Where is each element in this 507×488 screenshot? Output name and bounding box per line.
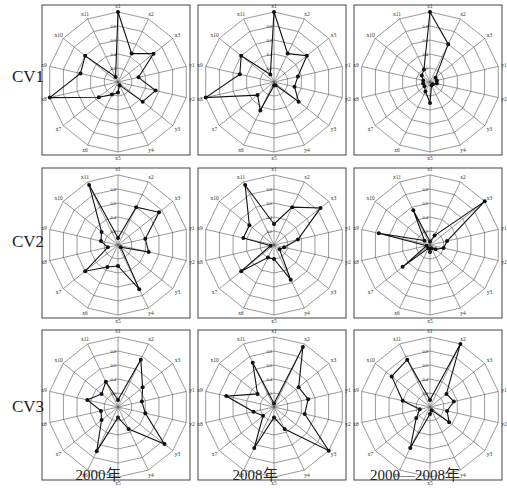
axis-label: x9: [41, 225, 47, 231]
data-point: [445, 409, 449, 413]
ring-tick-label: 0.6: [266, 201, 272, 206]
data-point: [99, 239, 103, 243]
panel-frame: [198, 330, 346, 480]
data-point: [140, 400, 144, 404]
ring-tick-label: 0.8: [422, 349, 428, 354]
axis-label: x9: [197, 62, 203, 68]
row-label-cv2: CV2: [12, 232, 44, 252]
axis-label: x6: [394, 310, 400, 316]
axis-label: x9: [41, 387, 47, 393]
axis-label: y2: [501, 421, 507, 427]
axis-label: y1: [345, 387, 351, 393]
radar-panel: x1x2x3y1y2y3y4x5x6x7x8x9x10x110.20.40.60…: [353, 3, 507, 161]
axis-label: x3: [487, 195, 493, 201]
axis-label: y1: [501, 387, 507, 393]
axis-label: y3: [487, 289, 493, 295]
data-point: [452, 400, 456, 404]
ring-tick-label: 0.4: [110, 215, 116, 220]
axis-label: x1: [115, 3, 121, 9]
data-point: [425, 244, 429, 248]
axis-label: y2: [345, 96, 351, 102]
data-point: [319, 206, 323, 210]
data-point: [483, 199, 487, 203]
panel-frame: [354, 330, 502, 480]
axis-label: y3: [487, 451, 493, 457]
axis-label: x6: [82, 310, 88, 316]
axis-label: x2: [148, 174, 154, 180]
data-point: [428, 10, 432, 14]
radar-panel: x1x2x3y1y2y3y4x5x6x7x8x9x10x110.20.40.60…: [197, 3, 351, 161]
axis-label: x7: [56, 289, 62, 295]
ring-tick-label: 0.8: [266, 24, 272, 29]
data-point: [114, 75, 118, 79]
data-point: [252, 446, 256, 450]
ring-tick-label: 0.8: [110, 24, 116, 29]
axis-label: x9: [353, 62, 359, 68]
data-point: [297, 385, 301, 389]
data-point: [283, 427, 287, 431]
axis-label: y2: [189, 96, 195, 102]
ring-tick-label: 0.2: [110, 66, 116, 71]
radar-panel: x1x2x3y1y2y3y4x5x6x7x8x9x10x110.20.40.60…: [197, 166, 351, 324]
data-point: [116, 91, 120, 95]
data-point: [251, 361, 255, 365]
ring-tick-label: 0.6: [110, 363, 116, 368]
data-point: [445, 239, 449, 243]
data-point: [116, 264, 120, 268]
axis-label: x11: [237, 11, 245, 17]
data-point: [106, 245, 110, 249]
data-point: [204, 96, 208, 100]
axis-label: y4: [304, 147, 310, 153]
axis-label: y2: [345, 259, 351, 265]
data-point: [139, 358, 143, 362]
ring-tick-label: 0.8: [422, 187, 428, 192]
data-point: [428, 250, 432, 254]
ring-tick-label: 0.6: [422, 363, 428, 368]
data-point: [154, 89, 158, 93]
axis-label: y3: [331, 289, 337, 295]
axis-label: x1: [427, 328, 433, 334]
data-point: [301, 345, 305, 349]
data-point: [116, 398, 120, 402]
axis-label: x8: [353, 259, 359, 265]
ring-tick-label: 0.2: [266, 229, 272, 234]
axis-label: y3: [331, 451, 337, 457]
axis-label: x1: [115, 166, 121, 172]
axis-label: y2: [189, 259, 195, 265]
data-point: [147, 250, 151, 254]
panel-frame: [198, 5, 346, 155]
data-point: [390, 374, 394, 378]
data-point: [152, 52, 156, 56]
axis-label: y3: [175, 289, 181, 295]
axis-label: y2: [501, 96, 507, 102]
axis-label: x10: [54, 195, 63, 201]
data-point: [239, 54, 243, 58]
data-point: [428, 240, 432, 244]
axis-label: y2: [345, 421, 351, 427]
data-point: [401, 399, 405, 403]
axis-label: x2: [460, 336, 466, 342]
axis-label: x1: [271, 166, 277, 172]
data-point: [272, 257, 276, 261]
axis-label: x7: [56, 126, 62, 132]
axis-label: x7: [212, 289, 218, 295]
axis-label: x3: [331, 195, 337, 201]
axis-label: x5: [271, 155, 277, 161]
axis-label: x3: [487, 357, 493, 363]
axis-label: x8: [41, 96, 47, 102]
data-point: [48, 96, 52, 100]
data-point: [258, 108, 262, 112]
axis-label: x7: [368, 126, 374, 132]
ring-tick-label: 0.6: [110, 201, 116, 206]
radar-chart-grid: x1x2x3y1y2y3y4x5x6x7x8x9x10x110.20.40.60…: [0, 0, 507, 488]
axis-label: y4: [304, 310, 310, 316]
ring-tick-label: 0.4: [422, 377, 428, 382]
axis-label: x8: [197, 259, 203, 265]
data-point: [418, 407, 422, 411]
data-point: [305, 54, 309, 58]
data-point: [401, 265, 405, 269]
data-point: [408, 446, 412, 450]
axis-label: x7: [368, 289, 374, 295]
data-point: [78, 71, 82, 75]
ring-tick-label: 0.8: [110, 349, 116, 354]
